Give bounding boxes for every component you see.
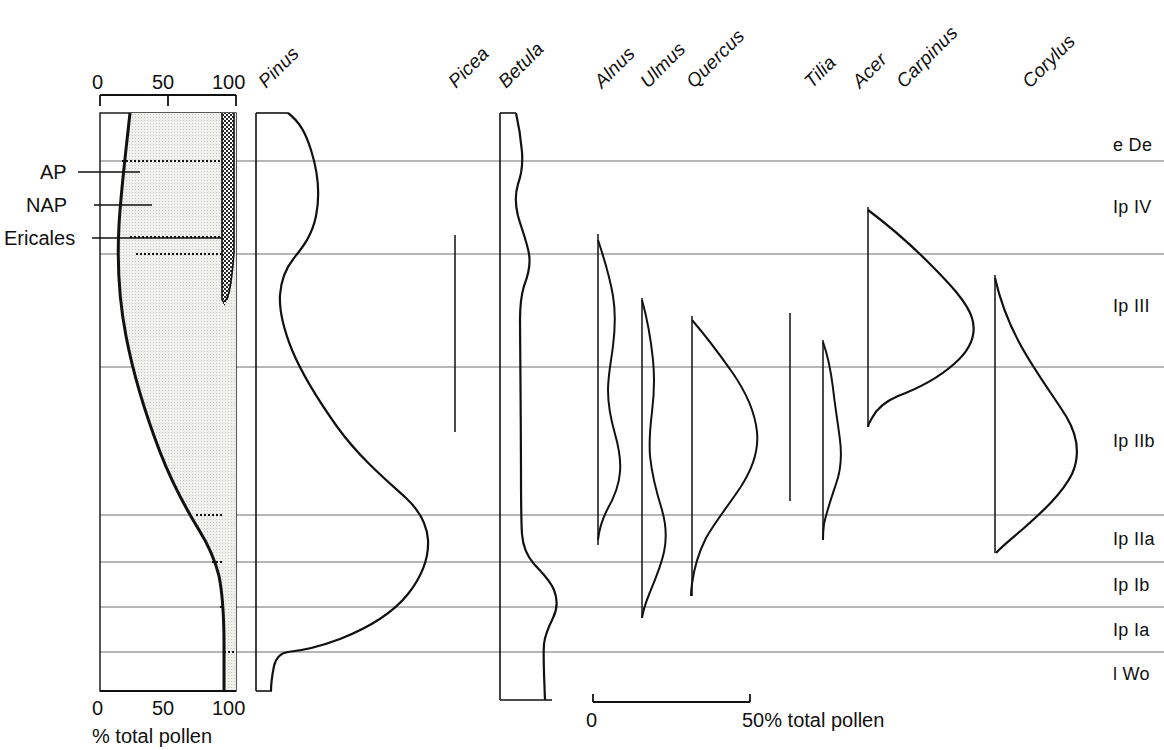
series-label-ericales: Ericales xyxy=(4,228,75,248)
curve-group-pinus xyxy=(256,113,428,691)
zone-label-ip-iib: Ip IIb xyxy=(1113,432,1155,450)
bottom-axis-tick-label-50: 50 xyxy=(152,698,174,718)
zone-label-ip-ia: Ip Ia xyxy=(1113,621,1150,639)
curve-group-corylus xyxy=(995,275,1077,553)
top-axis-tick-label-0: 0 xyxy=(92,72,103,92)
zone-label-ip-iii: Ip III xyxy=(1113,297,1150,315)
zone-boundary-lines xyxy=(100,161,1164,652)
cumulative-ap-nap-panel xyxy=(78,95,236,691)
ap-fill-area xyxy=(118,113,236,691)
zone-label-ip-iv: Ip IV xyxy=(1113,198,1152,216)
zone-label-l-wo: l Wo xyxy=(1113,665,1150,683)
bottom-axis-tick-label-0: 0 xyxy=(92,698,103,718)
scale-bar-label-end: 50% total pollen xyxy=(742,710,884,730)
alnus-curve xyxy=(598,240,620,540)
pollen-diagram-canvas xyxy=(0,0,1164,750)
curve-group-quercus xyxy=(691,316,757,596)
acer-curve xyxy=(823,342,841,540)
curve-group-betula xyxy=(500,113,557,700)
curve-group-ulmus xyxy=(642,298,666,618)
zone-label-ip-ib: Ip Ib xyxy=(1113,576,1150,594)
corylus-curve xyxy=(995,278,1077,553)
betula-curve xyxy=(516,113,557,700)
curve-group-acer xyxy=(823,340,841,540)
series-label-ap: AP xyxy=(40,162,67,182)
carpinus-curve xyxy=(868,210,974,427)
scale-bar-label-zero: 0 xyxy=(586,710,597,730)
bottom-axis-tick-label-100: 100 xyxy=(212,698,245,718)
zone-label-ip-iia: Ip IIa xyxy=(1113,530,1155,548)
pollen-diagram-figure: Pinus Picea Betula Alnus Ulmus Quercus T… xyxy=(0,0,1164,750)
curve-group-carpinus xyxy=(868,207,974,427)
scale-bar xyxy=(593,694,750,702)
series-label-nap: NAP xyxy=(26,195,67,215)
pinus-curve xyxy=(271,113,428,691)
top-axis-tick-label-100: 100 xyxy=(212,72,245,92)
curve-group-alnus xyxy=(598,234,620,545)
zone-label-e-de: e De xyxy=(1113,136,1152,154)
top-axis-tick-label-50: 50 xyxy=(152,72,174,92)
cumulative-top-axis xyxy=(100,95,236,106)
ulmus-curve xyxy=(642,300,666,618)
quercus-curve xyxy=(691,320,757,596)
left-axis-caption: % total pollen xyxy=(92,726,212,746)
